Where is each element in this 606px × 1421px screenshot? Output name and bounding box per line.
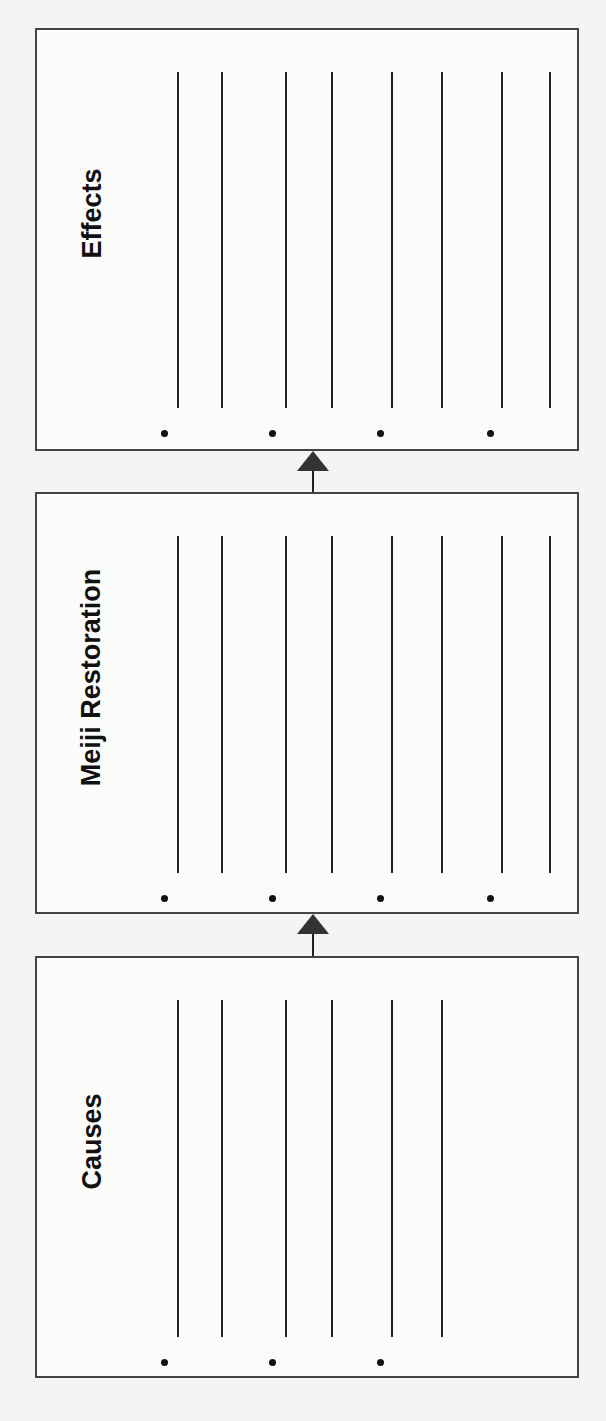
- box-title-causes: Causes: [62, 956, 122, 1327]
- bullet-dot: [487, 430, 494, 437]
- bullet-dot: [377, 430, 384, 437]
- writing-line[interactable]: [391, 72, 393, 408]
- writing-line[interactable]: [391, 536, 393, 873]
- writing-line[interactable]: [285, 536, 287, 873]
- writing-line[interactable]: [501, 72, 503, 408]
- bullet-dot: [377, 895, 384, 902]
- writing-line[interactable]: [221, 1000, 223, 1337]
- bullet-dot: [161, 895, 168, 902]
- box-title-effects: Effects: [62, 28, 122, 398]
- writing-line[interactable]: [177, 1000, 179, 1337]
- box-title-text: Causes: [77, 1093, 108, 1189]
- writing-line[interactable]: [501, 536, 503, 873]
- arrow-causes-to-meiji: [304, 914, 322, 956]
- bullet-dot: [161, 430, 168, 437]
- writing-line[interactable]: [331, 72, 333, 408]
- box-title-text: Meiji Restoration: [77, 569, 108, 787]
- writing-line[interactable]: [177, 536, 179, 873]
- box-title-meiji: Meiji Restoration: [62, 492, 122, 863]
- writing-line[interactable]: [331, 536, 333, 873]
- writing-line[interactable]: [391, 1000, 393, 1337]
- writing-line[interactable]: [549, 536, 551, 873]
- bullet-dot: [487, 895, 494, 902]
- writing-line[interactable]: [221, 72, 223, 408]
- writing-line[interactable]: [285, 72, 287, 408]
- writing-line[interactable]: [331, 1000, 333, 1337]
- writing-line[interactable]: [441, 1000, 443, 1337]
- writing-line[interactable]: [441, 536, 443, 873]
- writing-line[interactable]: [441, 72, 443, 408]
- writing-line[interactable]: [221, 536, 223, 873]
- writing-line[interactable]: [177, 72, 179, 408]
- bullet-dot: [269, 895, 276, 902]
- arrow-up-icon: [297, 451, 329, 471]
- bullet-dot: [269, 430, 276, 437]
- box-title-text: Effects: [77, 168, 108, 258]
- bullet-dot: [269, 1359, 276, 1366]
- arrow-meiji-to-effects: [304, 451, 322, 492]
- bullet-dot: [161, 1359, 168, 1366]
- bullet-dot: [377, 1359, 384, 1366]
- writing-line[interactable]: [549, 72, 551, 408]
- arrow-up-icon: [297, 914, 329, 934]
- writing-line[interactable]: [285, 1000, 287, 1337]
